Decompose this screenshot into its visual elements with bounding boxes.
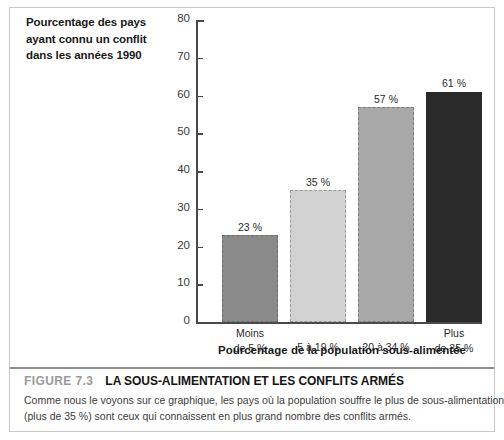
figure-root: Pourcentage des pays ayant connu un conf… xyxy=(0,0,504,440)
bar-value-label-1: 35 % xyxy=(306,176,330,188)
y-tick-label-30: 30 xyxy=(177,201,190,213)
caption-body-line-1: Comme nous le voyons sur ce graphique, l… xyxy=(24,393,486,409)
chart-area: Pourcentage des pays ayant connu un conf… xyxy=(0,0,504,368)
bar-plus-de-35: 61 % xyxy=(426,92,482,322)
y-tick-label-70: 70 xyxy=(177,50,190,62)
bar-20-a-34: 57 % xyxy=(358,107,414,322)
x-category-label-3-line-1: Plus xyxy=(435,326,474,341)
x-axis-title: Pourcentage de la population sous-alimen… xyxy=(196,344,488,356)
chart-title-line-3: dans les années 1990 xyxy=(26,47,176,64)
caption-divider xyxy=(10,367,494,369)
x-axis-line xyxy=(196,322,482,324)
y-tick-label-80: 80 xyxy=(177,12,190,24)
chart-y-axis-title: Pourcentage des pays ayant connu un conf… xyxy=(26,14,176,64)
figure-number: FIGURE 7.3 xyxy=(24,374,93,388)
caption-heading: FIGURE 7.3 LA SOUS-ALIMENTATION ET LES C… xyxy=(24,374,486,388)
x-category-label-0-line-1: Moins xyxy=(234,326,267,341)
figure-caption: FIGURE 7.3 LA SOUS-ALIMENTATION ET LES C… xyxy=(24,374,486,424)
chart-title-line-1: Pourcentage des pays xyxy=(26,14,176,31)
figure-title: LA SOUS-ALIMENTATION ET LES CONFLITS ARM… xyxy=(105,374,404,388)
y-tick-label-40: 40 xyxy=(177,163,190,175)
caption-body: Comme nous le voyons sur ce graphique, l… xyxy=(24,393,486,424)
y-tick-label-50: 50 xyxy=(177,125,190,137)
bar-value-label-3: 61 % xyxy=(442,77,466,89)
bar-value-label-0: 23 % xyxy=(238,221,262,233)
y-tick-label-60: 60 xyxy=(177,88,190,100)
y-tick-label-0: 0 xyxy=(184,314,190,326)
caption-body-line-2: (plus de 35 %) sont ceux qui connaissent… xyxy=(24,409,486,425)
bar-value-label-2: 57 % xyxy=(374,93,398,105)
y-tick-label-10: 10 xyxy=(177,276,190,288)
y-tick-label-20: 20 xyxy=(177,239,190,251)
chart-title-line-2: ayant connu un conflit xyxy=(26,31,176,48)
bar-moins-de-5: 23 % xyxy=(222,235,278,322)
bar-5-a-19: 35 % xyxy=(290,190,346,322)
plot-area: 0 10 20 30 40 50 xyxy=(196,20,482,322)
